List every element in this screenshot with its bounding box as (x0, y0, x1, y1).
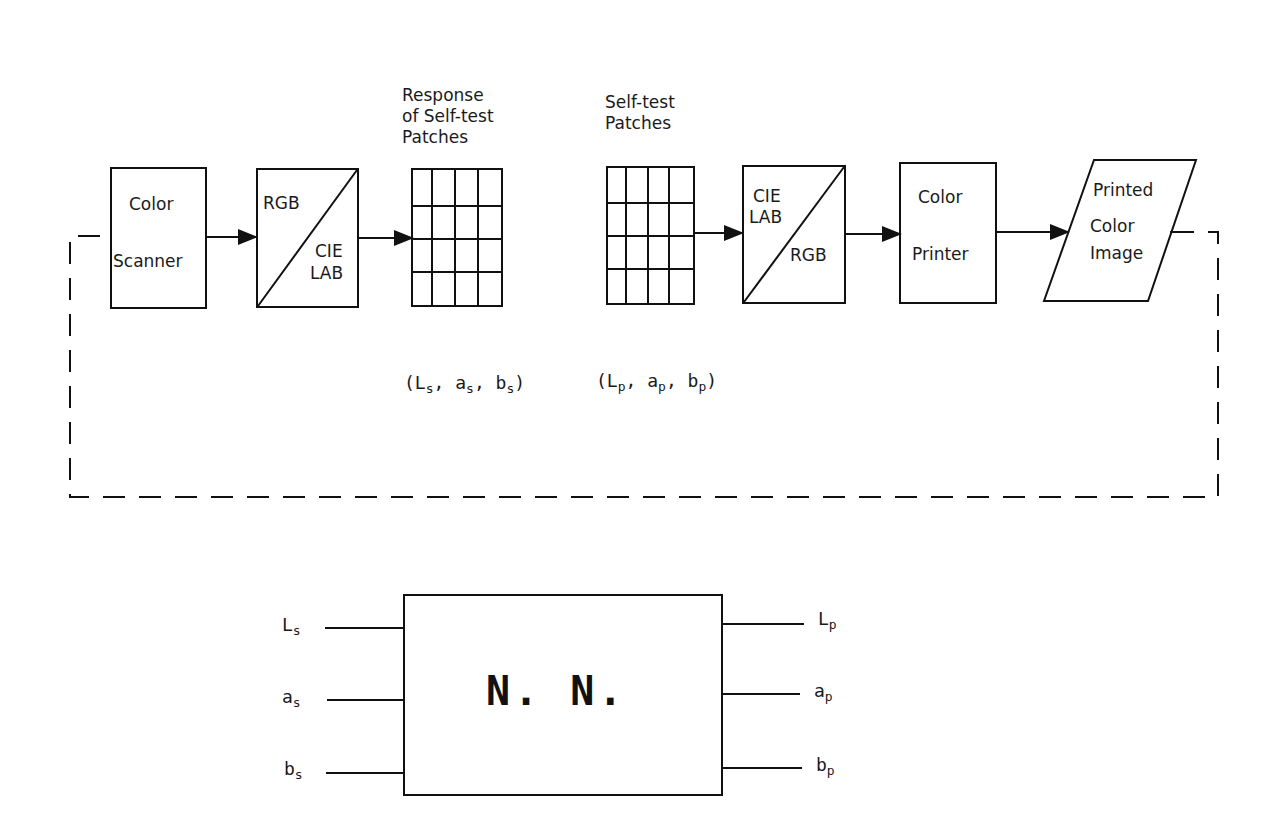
a-value: a (647, 370, 658, 391)
scanner-label-1: Color (129, 193, 173, 215)
subscript: s (466, 381, 474, 396)
rgb-label: RGB (263, 192, 300, 214)
rgb-label: RGB (790, 244, 827, 266)
input-a: as (282, 686, 301, 710)
selftest-patches-grid (607, 167, 694, 304)
io-base: a (814, 680, 825, 701)
io-base: b (816, 754, 827, 775)
output-b: bp (816, 754, 835, 778)
input-b: bs (284, 758, 303, 782)
comma: , (626, 370, 637, 391)
subscript: p (658, 379, 666, 394)
scanned-lab-tuple: (Ls, as, bs) (404, 372, 525, 396)
io-sub: p (827, 763, 835, 778)
scanner-label-2: Scanner (113, 250, 183, 272)
feedback-loop-dashed (70, 232, 1218, 497)
cie-label: CIE (753, 185, 781, 207)
comma: , (434, 372, 445, 393)
printed-label-2: Color (1090, 215, 1134, 237)
output-l: Lp (818, 608, 837, 632)
io-base: b (284, 758, 295, 779)
paren: ) (514, 372, 525, 393)
l-value: L (607, 370, 618, 391)
a-value: a (455, 372, 466, 393)
cie-label: CIE (315, 240, 343, 262)
printer-label-1: Color (918, 186, 962, 208)
caption-line: Response (402, 85, 494, 106)
color-scanner-box (111, 168, 206, 308)
paren: ( (404, 372, 415, 393)
selftest-patches-caption: Self-test Patches (605, 92, 675, 134)
io-base: L (282, 614, 293, 635)
caption-line: Self-test (605, 92, 675, 113)
subscript: p (618, 379, 626, 394)
caption-line: Patches (402, 127, 494, 148)
printed-label-1: Printed (1093, 179, 1153, 201)
printer-label-2: Printer (912, 243, 969, 265)
paren: ( (596, 370, 607, 391)
input-l: Ls (282, 614, 301, 638)
io-sub: s (293, 695, 301, 710)
caption-line: of Self-test (402, 106, 494, 127)
l-value: L (415, 372, 426, 393)
response-patches-caption: Response of Self-test Patches (402, 85, 494, 148)
lab-label: LAB (310, 262, 343, 284)
io-base: a (282, 686, 293, 707)
io-sub: s (295, 767, 303, 782)
printed-lab-tuple: (Lp, ap, bp) (596, 370, 717, 394)
io-base: L (818, 608, 829, 629)
io-sub: s (293, 623, 301, 638)
b-value: b (688, 370, 699, 391)
lab-label: LAB (749, 206, 782, 228)
io-sub: p (825, 689, 833, 704)
paren: ) (706, 370, 717, 391)
io-sub: p (829, 617, 837, 632)
b-value: b (496, 372, 507, 393)
comma: , (474, 372, 485, 393)
neural-network-label: N. N. (486, 668, 626, 714)
output-a: ap (814, 680, 833, 704)
color-printer-box (900, 163, 996, 303)
caption-line: Patches (605, 113, 675, 134)
comma: , (666, 370, 677, 391)
subscript: s (426, 381, 434, 396)
printed-label-3: Image (1090, 242, 1143, 264)
response-patches-grid (412, 169, 502, 306)
